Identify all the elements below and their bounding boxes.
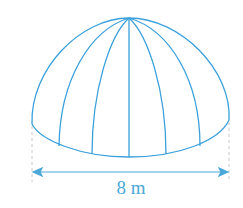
meridian-4 [129,18,166,154]
arrowhead-left-icon [33,168,42,176]
dome-outline [32,18,229,124]
arrowhead-right-icon [219,168,228,176]
meridian-1 [59,18,129,146]
dimension-label: 8 m [0,177,243,199]
